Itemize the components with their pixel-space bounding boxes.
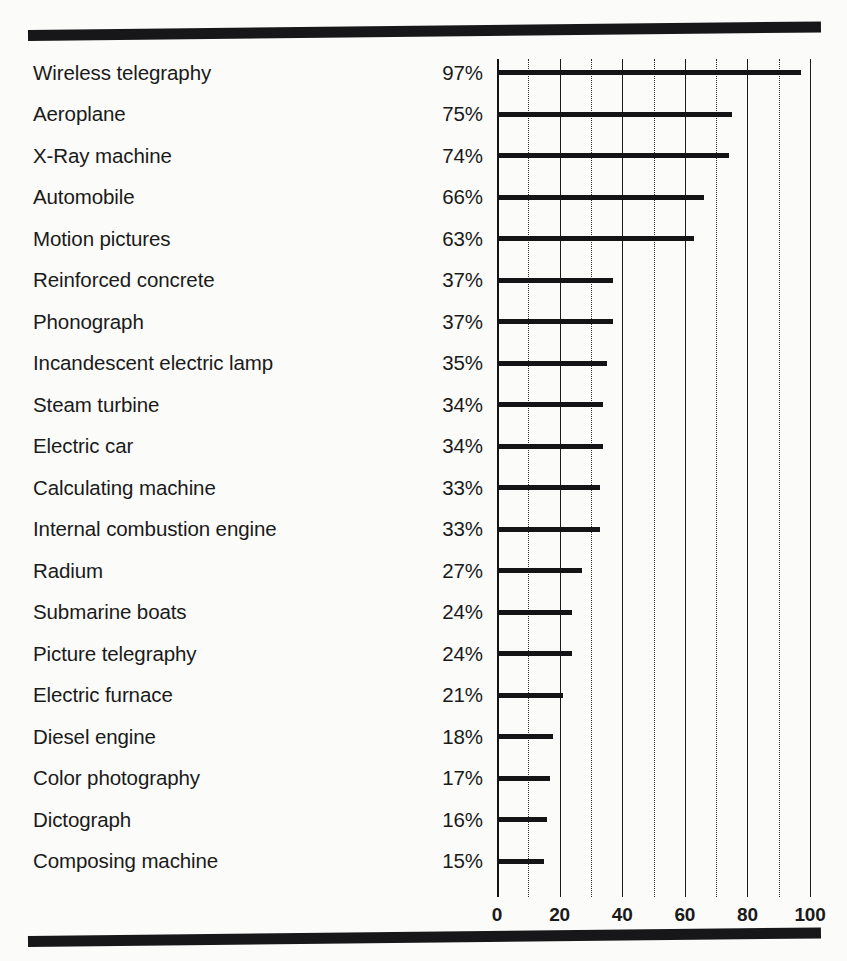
bar-track [497, 675, 847, 717]
chart-rows: Wireless telegraphy97%Aeroplane75%X-Ray … [0, 52, 847, 882]
chart-row: Electric furnace21% [0, 675, 847, 717]
category-label: Steam turbine [33, 395, 159, 416]
x-tick-label-100: 100 [794, 904, 825, 926]
bar-track [497, 633, 847, 675]
value-label: 24% [380, 644, 483, 665]
bar [497, 859, 544, 864]
value-label: 35% [380, 353, 483, 374]
bar [497, 112, 732, 117]
bar [497, 278, 613, 283]
chart-page: Wireless telegraphy97%Aeroplane75%X-Ray … [0, 0, 847, 961]
value-label: 18% [380, 727, 483, 748]
chart-row: Phonograph37% [0, 301, 847, 343]
bar-track [497, 716, 847, 758]
value-label: 37% [380, 312, 483, 333]
chart-row: Steam turbine34% [0, 384, 847, 426]
value-label: 15% [380, 851, 483, 872]
bar-track [497, 592, 847, 634]
value-label: 24% [380, 602, 483, 623]
value-label: 34% [380, 395, 483, 416]
chart-row: Electric car34% [0, 426, 847, 468]
bar [497, 236, 694, 241]
chart-row: Submarine boats24% [0, 592, 847, 634]
bar [497, 444, 603, 449]
bar [497, 734, 553, 739]
category-label: Electric car [33, 436, 133, 457]
bar [497, 527, 600, 532]
bar-track [497, 177, 847, 219]
bar-track [497, 343, 847, 385]
value-label: 63% [380, 229, 483, 250]
bar [497, 402, 603, 407]
bar [497, 817, 547, 822]
bar-track [497, 384, 847, 426]
bar [497, 195, 704, 200]
category-label: Phonograph [33, 312, 144, 333]
chart-row: Internal combustion engine33% [0, 509, 847, 551]
category-label: Wireless telegraphy [33, 63, 211, 84]
bar-track [497, 758, 847, 800]
bar-track [497, 426, 847, 468]
value-label: 97% [380, 63, 483, 84]
chart-row: Automobile66% [0, 177, 847, 219]
category-label: Incandescent electric lamp [33, 353, 273, 374]
category-label: Dictograph [33, 810, 131, 831]
value-label: 17% [380, 768, 483, 789]
bar-track [497, 52, 847, 94]
bar [497, 319, 613, 324]
category-label: Submarine boats [33, 602, 186, 623]
bar-track [497, 550, 847, 592]
bar-track [497, 260, 847, 302]
value-label: 75% [380, 104, 483, 125]
chart-row: Motion pictures63% [0, 218, 847, 260]
category-label: Composing machine [33, 851, 218, 872]
chart-row: Color photography17% [0, 758, 847, 800]
category-label: Aeroplane [33, 104, 126, 125]
x-tick-label-80: 80 [737, 904, 758, 926]
bar [497, 693, 563, 698]
category-label: Diesel engine [33, 727, 156, 748]
category-label: Picture telegraphy [33, 644, 196, 665]
chart-row: Composing machine15% [0, 841, 847, 883]
value-label: 27% [380, 561, 483, 582]
value-label: 66% [380, 187, 483, 208]
chart-row: Reinforced concrete37% [0, 260, 847, 302]
bar [497, 651, 572, 656]
bar-track [497, 841, 847, 883]
category-label: Calculating machine [33, 478, 216, 499]
bar-track [497, 135, 847, 177]
value-label: 21% [380, 685, 483, 706]
value-label: 16% [380, 810, 483, 831]
value-label: 34% [380, 436, 483, 457]
bar [497, 361, 607, 366]
bar [497, 485, 600, 490]
chart-row: Aeroplane75% [0, 94, 847, 136]
chart-row: Calculating machine33% [0, 467, 847, 509]
bar-track [497, 218, 847, 260]
value-label: 74% [380, 146, 483, 167]
bar-track [497, 799, 847, 841]
category-label: Reinforced concrete [33, 270, 215, 291]
top-decorative-rule [28, 21, 821, 41]
chart-row: Picture telegraphy24% [0, 633, 847, 675]
bottom-decorative-rule [28, 927, 821, 947]
bar-track [497, 467, 847, 509]
bar [497, 70, 801, 75]
chart-row: Incandescent electric lamp35% [0, 343, 847, 385]
chart-row: Radium27% [0, 550, 847, 592]
x-tick-label-40: 40 [612, 904, 633, 926]
bar [497, 568, 582, 573]
x-tick-label-20: 20 [549, 904, 570, 926]
value-label: 33% [380, 478, 483, 499]
category-label: Motion pictures [33, 229, 171, 250]
bar-track [497, 301, 847, 343]
value-label: 33% [380, 519, 483, 540]
category-label: Radium [33, 561, 103, 582]
category-label: X-Ray machine [33, 146, 172, 167]
category-label: Color photography [33, 768, 200, 789]
x-tick-label-0: 0 [492, 904, 502, 926]
x-tick-label-60: 60 [674, 904, 695, 926]
category-label: Electric furnace [33, 685, 173, 706]
category-label: Automobile [33, 187, 135, 208]
horizontal-bar-chart: Wireless telegraphy97%Aeroplane75%X-Ray … [0, 52, 847, 912]
